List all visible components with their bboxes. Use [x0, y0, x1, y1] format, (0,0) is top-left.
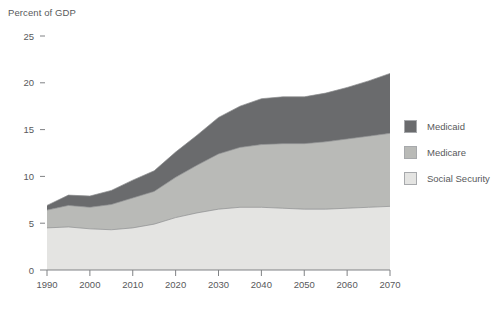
- x-tick-label: 2010: [122, 279, 143, 290]
- legend-label-medicaid: Medicaid: [427, 121, 465, 132]
- x-tick-label: 1990: [36, 279, 57, 290]
- legend-item-medicare: Medicare: [404, 139, 500, 165]
- legend-label-social-security: Social Security: [427, 173, 490, 184]
- legend-item-medicaid: Medicaid: [404, 113, 500, 139]
- legend-swatch-medicaid: [404, 120, 417, 133]
- y-tick-label: 20: [23, 77, 34, 88]
- chart-legend: Medicaid Medicare Social Security: [404, 113, 500, 191]
- legend-item-social-security: Social Security: [404, 165, 500, 191]
- legend-label-medicare: Medicare: [427, 147, 466, 158]
- gdp-spending-area-chart: Percent of GDP 0510152025 19902000201020…: [0, 0, 501, 313]
- y-tick-label: 10: [23, 171, 34, 182]
- y-axis: 0510152025: [23, 31, 45, 276]
- y-tick-label: 25: [23, 31, 34, 42]
- x-tick-label: 2070: [379, 279, 400, 290]
- x-axis: 199020002010202020302040205020602070: [36, 270, 400, 290]
- x-tick-label: 2020: [165, 279, 186, 290]
- x-tick-label: 2050: [294, 279, 315, 290]
- legend-swatch-social-security: [404, 172, 417, 185]
- x-tick-label: 2000: [79, 279, 100, 290]
- x-tick-label: 2030: [208, 279, 229, 290]
- x-tick-label: 2040: [251, 279, 272, 290]
- y-tick-label: 15: [23, 124, 34, 135]
- y-tick-label: 5: [29, 218, 34, 229]
- stacked-areas: [47, 73, 390, 270]
- y-tick-label: 0: [29, 265, 34, 276]
- legend-swatch-medicare: [404, 146, 417, 159]
- x-tick-label: 2060: [337, 279, 358, 290]
